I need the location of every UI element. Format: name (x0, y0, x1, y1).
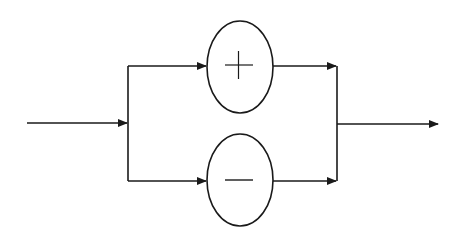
plus-icon (225, 51, 253, 79)
plus-node (207, 21, 273, 113)
parallel-diagram (0, 0, 463, 236)
